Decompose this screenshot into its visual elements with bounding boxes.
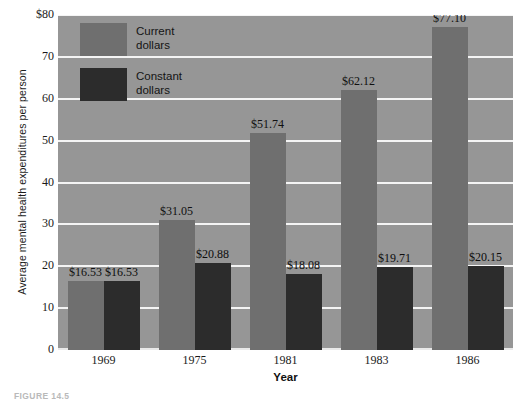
legend-label-constant-dollars: Constant dollars — [136, 68, 182, 97]
legend-item-constant-dollars: Constant dollars — [80, 68, 182, 101]
y-axis-tick-label: 20 — [16, 259, 54, 271]
plot-area: $16.53$16.53$31.05$20.88$51.74$18.08$62.… — [58, 15, 513, 350]
bar-value-label: $20.15 — [469, 250, 502, 265]
legend-label-current-dollars: Current dollars — [136, 23, 174, 52]
bar-constant-1986: $20.15 — [468, 266, 504, 350]
x-axis-tick-label-1969: 1969 — [92, 353, 116, 368]
y-axis-tick-label: 10 — [16, 301, 54, 313]
y-axis-tick-label: 40 — [16, 176, 54, 188]
legend-swatch-current-dollars — [80, 23, 127, 56]
bar-constant-1975: $20.88 — [195, 263, 231, 350]
bar-current-1969: $16.53 — [68, 281, 104, 350]
legend-label-line1: Constant — [136, 70, 182, 82]
bar-value-label: $51.74 — [251, 117, 284, 132]
figure-caption: FIGURE 14.5 — [14, 391, 69, 399]
legend-label-line2: dollars — [136, 39, 170, 51]
legend-label-line1: Current — [136, 25, 174, 37]
bar-group-1981: $51.74$18.08 — [250, 15, 322, 350]
bar-constant-1969: $16.53 — [104, 281, 140, 350]
bar-current-1975: $31.05 — [159, 220, 195, 350]
bar-value-label: $18.08 — [287, 258, 320, 273]
chart-figure: Average mental health expenditures per p… — [0, 0, 529, 399]
bar-constant-1981: $18.08 — [286, 274, 322, 350]
bar-current-1986: $77.10 — [432, 27, 468, 350]
bar-current-1981: $51.74 — [250, 133, 286, 350]
bar-value-label: $20.88 — [196, 247, 229, 262]
legend-item-current-dollars: Current dollars — [80, 23, 182, 56]
x-axis-tick-label-1975: 1975 — [183, 353, 207, 368]
bar-value-label: $19.71 — [378, 251, 411, 266]
y-axis-tick-label: 0 — [16, 343, 54, 355]
x-axis-tick-label-1983: 1983 — [365, 353, 389, 368]
bar-group-1986: $77.10$20.15 — [432, 15, 504, 350]
legend-swatch-constant-dollars — [80, 68, 127, 101]
bar-value-label: $31.05 — [160, 204, 193, 219]
legend: Current dollars Constant dollars — [80, 23, 182, 101]
bar-current-1983: $62.12 — [341, 90, 377, 350]
y-axis-tick-label: 70 — [16, 50, 54, 62]
x-axis-tick-label-1986: 1986 — [456, 353, 480, 368]
x-axis-tick-label-1981: 1981 — [274, 353, 298, 368]
y-axis-tick-label: 30 — [16, 217, 54, 229]
bar-value-label: $77.10 — [433, 15, 466, 26]
bar-group-1983: $62.12$19.71 — [341, 15, 413, 350]
bar-value-label: $16.53 — [105, 265, 138, 280]
y-axis-tick-labels: 010203040506070$80 — [14, 0, 54, 399]
bar-constant-1983: $19.71 — [377, 267, 413, 350]
x-axis-tick-labels: 19691975198119831986 — [58, 353, 513, 369]
y-axis-tick-label: 50 — [16, 134, 54, 146]
x-axis-title: Year — [58, 371, 513, 383]
y-axis-tick-label: $80 — [16, 8, 54, 20]
legend-label-line2: dollars — [136, 84, 170, 96]
bar-value-label: $16.53 — [69, 265, 102, 280]
y-axis-tick-label: 60 — [16, 92, 54, 104]
bar-value-label: $62.12 — [342, 74, 375, 89]
